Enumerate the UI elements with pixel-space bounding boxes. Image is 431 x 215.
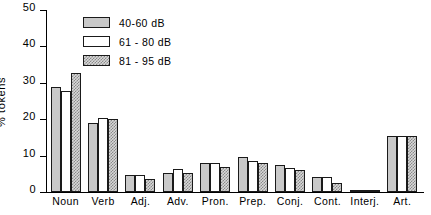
- bar: [248, 161, 258, 192]
- bar: [88, 123, 98, 192]
- bar-group-cont: Cont.: [309, 10, 346, 192]
- x-tick-label: Pron.: [197, 195, 234, 207]
- bar: [200, 163, 210, 192]
- bar: [183, 173, 193, 192]
- bar: [108, 119, 118, 192]
- bar-group-conj: Conj.: [271, 10, 308, 192]
- bar: [370, 190, 380, 192]
- bar: [145, 179, 155, 192]
- legend-label: 40-60 dB: [119, 17, 165, 29]
- y-tick-mark: [40, 156, 46, 157]
- x-tick-label: Adj.: [122, 195, 159, 207]
- bar: [173, 169, 183, 192]
- legend-swatch: [83, 55, 110, 66]
- x-tick-label: Noun: [47, 195, 84, 207]
- y-tick-label: 40: [0, 38, 36, 49]
- bar: [387, 136, 397, 192]
- y-tick-label: 50: [0, 2, 36, 13]
- bar: [407, 136, 417, 192]
- bar: [295, 170, 305, 192]
- bar: [98, 118, 108, 192]
- bar: [397, 136, 407, 192]
- x-tick-label: Interj.: [346, 195, 383, 207]
- bar: [322, 177, 332, 192]
- bar: [210, 163, 220, 192]
- y-tick-mark: [40, 10, 46, 11]
- bar: [285, 168, 295, 192]
- x-tick-label: Prep.: [234, 195, 271, 207]
- bar: [125, 175, 135, 192]
- x-tick-label: Adv.: [159, 195, 196, 207]
- bar: [135, 175, 145, 192]
- bar: [61, 91, 71, 192]
- y-tick-mark: [40, 83, 46, 84]
- y-tick-mark: [40, 192, 46, 193]
- legend-item: 40-60 dB: [83, 15, 171, 30]
- bar: [220, 167, 230, 192]
- bar: [163, 173, 173, 192]
- legend-label: 81 - 95 dB: [119, 55, 171, 67]
- chart-legend: 40-60 dB61 - 80 dB81 - 95 dB: [83, 15, 171, 72]
- x-tick-label: Cont.: [309, 195, 346, 207]
- bar-group-pron: Pron.: [197, 10, 234, 192]
- y-axis-label: % tokens: [0, 77, 7, 127]
- bar-group-interj: Interj.: [346, 10, 383, 192]
- bar-group-prep: Prep.: [234, 10, 271, 192]
- legend-item: 81 - 95 dB: [83, 53, 171, 68]
- bar: [71, 73, 81, 192]
- legend-label: 61 - 80 dB: [119, 36, 171, 48]
- y-tick-label: 0: [0, 184, 36, 195]
- bar: [312, 177, 322, 192]
- x-tick-label: Art.: [384, 195, 421, 207]
- x-axis-line: [46, 192, 424, 193]
- bar-group-noun: Noun: [47, 10, 84, 192]
- bar: [51, 87, 61, 192]
- legend-swatch: [83, 17, 110, 28]
- bar: [258, 163, 268, 192]
- bar: [332, 183, 342, 192]
- bar: [238, 157, 248, 192]
- x-tick-label: Verb: [84, 195, 121, 207]
- y-tick-label: 10: [0, 148, 36, 159]
- y-tick-mark: [40, 46, 46, 47]
- y-tick-mark: [40, 119, 46, 120]
- bar: [275, 165, 285, 192]
- legend-item: 61 - 80 dB: [83, 34, 171, 49]
- x-tick-label: Conj.: [271, 195, 308, 207]
- bar-chart: 01020304050 % tokens NounVerbAdj.Adv.Pro…: [0, 0, 431, 215]
- bar: [350, 190, 360, 192]
- bar-group-art: Art.: [384, 10, 421, 192]
- legend-swatch: [83, 36, 110, 47]
- bar: [360, 190, 370, 192]
